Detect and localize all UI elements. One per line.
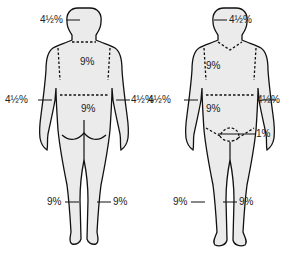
label-front-left-arm: 4½% <box>148 95 171 105</box>
label-back-lower: 9% <box>81 104 95 114</box>
anterior-figure <box>186 8 275 246</box>
label-back-left-leg: 9% <box>47 197 61 207</box>
label-front-right-leg: 9% <box>239 197 253 207</box>
label-back-right-leg: 9% <box>113 197 127 207</box>
body-diagram <box>0 0 292 265</box>
label-front-head: 4½% <box>229 15 252 25</box>
label-back-left-arm: 4½% <box>5 95 28 105</box>
label-back-upper: 9% <box>80 57 94 67</box>
label-front-genitals: 1% <box>256 129 270 139</box>
label-front-right-arm: 4½% <box>257 95 280 105</box>
label-front-abdomen: 9% <box>206 104 220 114</box>
label-front-chest: 9% <box>206 61 220 71</box>
label-front-left-leg: 9% <box>173 197 187 207</box>
posterior-figure <box>40 8 129 244</box>
label-back-head: 4½% <box>40 15 63 25</box>
